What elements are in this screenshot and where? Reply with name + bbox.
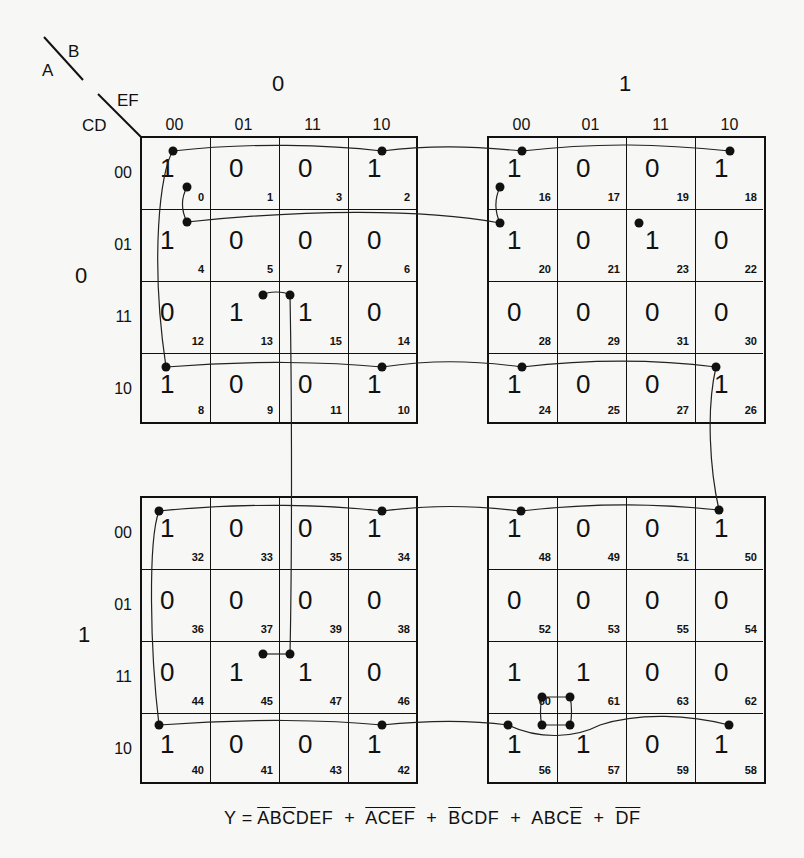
kmap-cell-4: 14 xyxy=(142,210,211,282)
cell-minterm-index: 52 xyxy=(539,624,551,635)
cell-minterm-index: 17 xyxy=(608,192,620,203)
ef-col-11: 11 xyxy=(278,117,347,133)
cell-value: 0 xyxy=(160,659,174,685)
kmap-cell-29: 029 xyxy=(558,282,627,354)
cell-minterm-index: 5 xyxy=(267,264,273,275)
cell-minterm-index: 2 xyxy=(404,192,410,203)
equation-term: ABCDEF xyxy=(257,808,333,828)
kmap-a0-b1: 1160170191181200211230220280290310301240… xyxy=(487,136,766,424)
literal: DEF xyxy=(296,808,334,828)
cell-minterm-index: 57 xyxy=(608,765,620,776)
cell-minterm-index: 42 xyxy=(398,765,410,776)
cell-value: 1 xyxy=(714,371,728,397)
cell-value: 0 xyxy=(645,587,659,613)
cell-value: 0 xyxy=(645,659,659,685)
equation-plus: + xyxy=(499,808,531,828)
kmap-cell-62: 062 xyxy=(696,642,763,714)
kmap-cell-37: 037 xyxy=(211,570,280,642)
cell-value: 0 xyxy=(576,299,590,325)
cell-minterm-index: 63 xyxy=(677,696,689,707)
ef-col-11: 11 xyxy=(626,117,695,133)
kmap-cell-30: 030 xyxy=(696,282,763,354)
cell-minterm-index: 1 xyxy=(267,192,273,203)
equation-term: DF xyxy=(615,808,640,828)
cell-minterm-index: 30 xyxy=(745,336,757,347)
cell-minterm-index: 25 xyxy=(608,405,620,416)
kmap-cell-31: 031 xyxy=(627,282,696,354)
cell-value: 0 xyxy=(367,587,381,613)
cell-minterm-index: 44 xyxy=(192,696,204,707)
equation-term: ABCE xyxy=(531,808,582,828)
cell-value: 0 xyxy=(714,587,728,613)
kmap-cell-49: 049 xyxy=(558,498,627,570)
var-ef-label: EF xyxy=(117,92,139,109)
kmap-cell-33: 033 xyxy=(211,498,280,570)
kmap-cell-50: 150 xyxy=(696,498,763,570)
var-b-label: B xyxy=(68,43,79,60)
kmap-a1-b0: 1320330351340360370390380441451470461400… xyxy=(140,496,418,784)
cell-value: 0 xyxy=(645,515,659,541)
complemented-literal: C xyxy=(282,808,296,828)
kmap-cell-6: 06 xyxy=(349,210,416,282)
cell-minterm-index: 53 xyxy=(608,624,620,635)
cell-minterm-index: 54 xyxy=(745,624,757,635)
cell-minterm-index: 29 xyxy=(608,336,620,347)
cd-row-00: 00 xyxy=(102,165,132,181)
cell-minterm-index: 7 xyxy=(336,264,342,275)
cell-value: 1 xyxy=(367,155,381,181)
cd-row-01: 01 xyxy=(102,597,132,613)
kmap-cell-34: 134 xyxy=(349,498,416,570)
cell-value: 0 xyxy=(576,155,590,181)
kmap-cell-35: 035 xyxy=(280,498,349,570)
cell-value: 0 xyxy=(367,659,381,685)
cell-minterm-index: 0 xyxy=(198,192,204,203)
kmap-cell-38: 038 xyxy=(349,570,416,642)
cell-value: 0 xyxy=(714,659,728,685)
cell-value: 1 xyxy=(160,155,174,181)
cell-minterm-index: 16 xyxy=(539,192,551,203)
cell-value: 1 xyxy=(367,371,381,397)
literal: CDF xyxy=(461,808,500,828)
kmap-cell-63: 063 xyxy=(627,642,696,714)
cell-minterm-index: 18 xyxy=(745,192,757,203)
kmap-cell-3: 03 xyxy=(280,138,349,210)
cell-value: 1 xyxy=(298,299,312,325)
cell-value: 0 xyxy=(229,371,243,397)
kmap-cell-42: 142 xyxy=(349,714,416,782)
kmap-cell-43: 043 xyxy=(280,714,349,782)
cell-value: 1 xyxy=(507,227,521,253)
kmap-cell-1: 01 xyxy=(211,138,280,210)
cell-value: 0 xyxy=(576,227,590,253)
cell-value: 1 xyxy=(576,731,590,757)
cell-minterm-index: 19 xyxy=(677,192,689,203)
cell-minterm-index: 4 xyxy=(198,264,204,275)
ef-col-01: 01 xyxy=(209,117,278,133)
cell-value: 1 xyxy=(507,659,521,685)
kmap-cell-28: 028 xyxy=(489,282,558,354)
equation-lhs: Y = xyxy=(224,808,257,828)
cell-value: 0 xyxy=(298,371,312,397)
kmap-cell-39: 039 xyxy=(280,570,349,642)
cell-minterm-index: 3 xyxy=(336,192,342,203)
cell-value: 1 xyxy=(160,515,174,541)
cell-minterm-index: 33 xyxy=(261,552,273,563)
kmap-cell-53: 053 xyxy=(558,570,627,642)
cell-minterm-index: 11 xyxy=(330,405,342,416)
equation-plus: + xyxy=(582,808,615,828)
kmap-cell-12: 012 xyxy=(142,282,211,354)
ef-col-10: 10 xyxy=(347,117,416,133)
kmap-cell-56: 156 xyxy=(489,714,558,782)
cell-minterm-index: 49 xyxy=(608,552,620,563)
cell-value: 1 xyxy=(507,155,521,181)
kmap-cell-9: 09 xyxy=(211,354,280,422)
cell-minterm-index: 62 xyxy=(745,696,757,707)
kmap-a0-b0: 10010312140507060121131150141809011110 xyxy=(140,136,418,424)
cell-value: 1 xyxy=(367,731,381,757)
kmap-cell-18: 118 xyxy=(696,138,763,210)
complemented-literal: B xyxy=(448,808,461,828)
cell-value: 0 xyxy=(714,227,728,253)
cell-minterm-index: 10 xyxy=(398,405,410,416)
cell-minterm-index: 12 xyxy=(192,336,204,347)
cell-value: 0 xyxy=(160,299,174,325)
cell-value: 1 xyxy=(229,299,243,325)
